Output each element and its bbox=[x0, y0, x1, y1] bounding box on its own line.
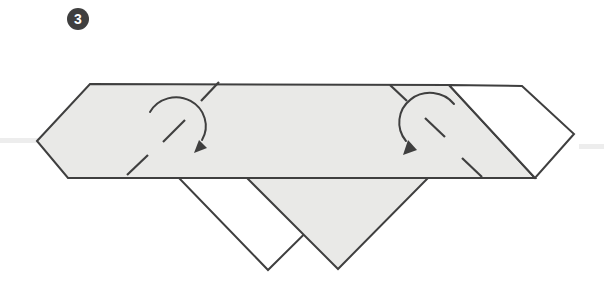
diagram-canvas: 3 bbox=[0, 0, 604, 287]
origami-diagram bbox=[0, 0, 604, 287]
